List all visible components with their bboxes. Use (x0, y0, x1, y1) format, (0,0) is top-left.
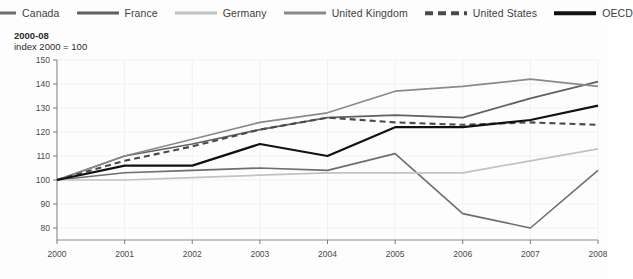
legend-swatch-france (77, 8, 119, 18)
x-axis-tick-label: 2002 (183, 249, 202, 259)
legend-item-oecd: OECD (554, 8, 633, 19)
y-axis-tick-label: 90 (41, 199, 51, 209)
y-axis-tick-label: 80 (41, 223, 51, 233)
legend-item-germany: Germany (175, 8, 267, 19)
x-axis-tick-label: 2001 (115, 249, 134, 259)
grid-lines (57, 60, 598, 240)
y-axis-tick-label: 150 (36, 55, 50, 65)
y-axis-tick-label: 110 (36, 151, 50, 161)
y-axis-tick-label: 130 (36, 103, 50, 113)
legend-label-oecd: OECD (602, 8, 633, 19)
legend-swatch-united-kingdom (284, 8, 326, 18)
x-axis-tick-label: 2000 (48, 249, 67, 259)
x-axis-tick-label: 2005 (386, 249, 405, 259)
y-axis-tick-label: 100 (36, 175, 50, 185)
legend-item-france: France (77, 8, 158, 19)
legend-swatch-canada (0, 8, 16, 18)
y-axis-ticks: 8090100110120130140150 (36, 55, 57, 233)
legend-label-france: France (125, 8, 158, 19)
legend-swatch-germany (175, 8, 217, 18)
chart-index-subtitle: index 2000 = 100 (14, 41, 87, 52)
x-axis-tick-label: 2004 (318, 249, 337, 259)
x-axis-tick-label: 2008 (589, 249, 607, 259)
y-axis-tick-label: 140 (36, 79, 50, 89)
legend-item-canada: Canada (0, 8, 60, 19)
chart-plot-area: 8090100110120130140150 20002001200220032… (0, 52, 607, 279)
legend-item-united-kingdom: United Kingdom (284, 8, 408, 19)
legend-item-united-states: United States (425, 8, 537, 19)
legend-label-canada: Canada (22, 8, 59, 19)
line-chart-svg: 8090100110120130140150 20002001200220032… (0, 52, 607, 279)
x-axis-tick-label: 2006 (453, 249, 472, 259)
legend-swatch-oecd (554, 8, 596, 18)
y-axis-tick-label: 120 (36, 127, 50, 137)
chart-period-title: 2000-08 (14, 30, 87, 41)
legend-swatch-united-states (425, 8, 467, 18)
chart-title-block: 2000-08 index 2000 = 100 (14, 30, 87, 52)
x-axis-ticks: 200020012002200320042005200620072008 (48, 240, 607, 259)
chart-legend: CanadaFranceGermanyUnited KingdomUnited … (0, 4, 607, 22)
x-axis-tick-label: 2007 (521, 249, 540, 259)
legend-label-united-kingdom: United Kingdom (332, 8, 408, 19)
x-axis-tick-label: 2003 (250, 249, 269, 259)
legend-label-germany: Germany (223, 8, 267, 19)
legend-label-united-states: United States (473, 8, 537, 19)
